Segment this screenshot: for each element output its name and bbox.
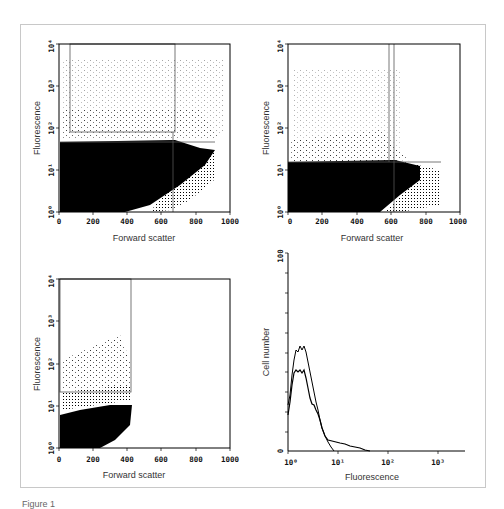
y-tick: 10⁰	[47, 441, 56, 455]
x-tick: 800	[189, 455, 203, 464]
y-axis-title: Fluorescence	[32, 101, 42, 155]
y-tick: 10⁴	[276, 39, 285, 53]
y-tick: 10³	[276, 79, 285, 93]
x-tick: 200	[86, 217, 100, 226]
x-axis-title: Forward scatter	[103, 470, 166, 480]
y-tick: 10³	[47, 314, 56, 328]
dense-population	[60, 405, 132, 448]
x-tick: 10¹	[331, 458, 345, 467]
y-axis-title: Cell number	[261, 328, 271, 377]
panel-top-left: 0 200 400 600 800 1000 10⁰ 10¹ 10² 10³ 1…	[32, 39, 240, 243]
x-tick: 200	[315, 217, 329, 226]
histogram-stained	[288, 370, 370, 451]
x-tick: 0	[57, 455, 62, 464]
y-tick: 10²	[47, 357, 56, 371]
y-tick: 10²	[276, 121, 285, 135]
figure-caption: Figure 1	[22, 499, 55, 509]
y-tick: 10¹	[47, 163, 56, 177]
x-tick: 600	[384, 217, 398, 226]
x-tick: 200	[86, 455, 100, 464]
x-tick: 10⁰	[284, 458, 298, 467]
x-tick: 400	[350, 217, 364, 226]
x-axis-title: Fluorescence	[345, 472, 399, 482]
y-tick: 10⁴	[47, 274, 56, 288]
y-tick: 10⁰	[47, 205, 56, 219]
x-tick: 400	[120, 217, 134, 226]
y-tick: 10¹	[47, 399, 56, 413]
y-axis-title: Fluorescence	[261, 101, 271, 155]
y-tick: 10¹	[276, 163, 285, 177]
y-tick: 10²	[47, 121, 56, 135]
x-tick: 600	[154, 455, 168, 464]
x-axis-title: Forward scatter	[341, 233, 404, 243]
x-tick: 1000	[221, 455, 240, 464]
x-tick: 0	[288, 217, 293, 226]
x-tick: 600	[154, 217, 168, 226]
x-tick: 1000	[449, 217, 468, 226]
y-tick: 10⁰	[276, 205, 285, 219]
figure-svg: 0 200 400 600 800 1000 10⁰ 10¹ 10² 10³ 1…	[0, 0, 504, 509]
y-tick: 10³	[47, 79, 56, 93]
panel-bottom-left: 0 200 400 600 800 1000 10⁰ 10¹ 10² 10³ 1…	[32, 274, 240, 480]
panel-bottom-right: 10⁰ 10¹ 10² 10³ 0 100 Fluorescence Cell …	[261, 249, 465, 482]
x-tick: 0	[57, 217, 62, 226]
x-axis-title: Forward scatter	[113, 233, 176, 243]
x-tick: 800	[419, 217, 433, 226]
x-tick: 10²	[381, 458, 395, 467]
x-tick: 400	[120, 455, 134, 464]
y-tick: 0	[276, 448, 285, 453]
y-tick: 100	[276, 249, 285, 263]
x-tick: 10³	[431, 458, 445, 467]
x-tick: 1000	[221, 217, 240, 226]
y-axis-title: Fluorescence	[32, 337, 42, 391]
panel-top-right: 0 200 400 600 800 1000 10⁰ 10¹ 10² 10³ 1…	[261, 39, 468, 243]
histogram-control	[288, 346, 334, 451]
x-tick: 800	[189, 217, 203, 226]
y-tick: 10⁴	[47, 39, 56, 53]
